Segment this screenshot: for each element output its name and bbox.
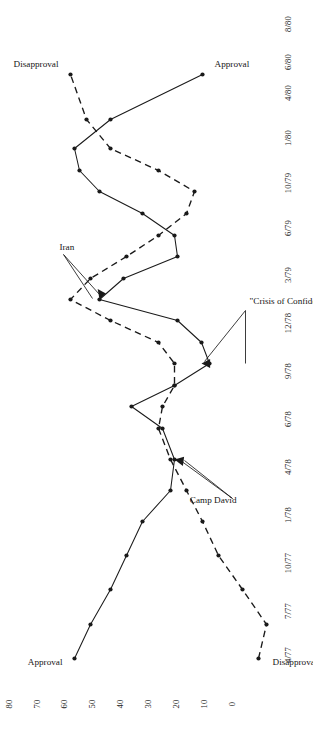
y-tick-30: 30 [143,700,153,709]
approval-line [74,74,209,658]
x-tick-4-80: 4/80 [283,85,293,101]
annotation-crisis-of-confidence: "Crisis of Confidence" [201,295,313,367]
x-tick-8-80: 8/80 [283,16,293,32]
y-tick-40: 40 [115,700,125,709]
camp-david-label: Camp David [189,494,236,504]
y-tick-50: 50 [87,700,97,709]
annotation-camp-david: Camp David [174,456,236,504]
x-tick-9-78: 9/78 [283,363,293,379]
x-tick-4-77: 4/77 [283,647,293,663]
series-approval [72,72,211,660]
rotated-plot-frame: Camp David "Crisis of Confidence" Iran [0,0,313,746]
camp-david-leader [184,460,232,498]
disapproval-series-label-end: Disapproval [13,58,58,68]
y-tick-20: 20 [171,700,181,709]
approval-markers [72,72,211,660]
series-disapproval [68,72,268,660]
y-tick-10: 10 [199,700,209,709]
approval-series-label-start: Approval [27,656,62,666]
y-tick-70: 70 [32,700,42,709]
disapproval-markers [68,72,268,660]
x-tick-1-78: 1/78 [283,507,293,523]
x-tick-10-77: 10/77 [283,553,293,574]
x-tick-6-80: 6/80 [283,54,293,70]
x-tick-6-79: 6/79 [283,220,293,236]
x-tick-6-78: 6/78 [283,411,293,427]
annotation-iran: Iran [59,241,105,299]
iran-label: Iran [59,241,74,251]
x-tick-1-80: 1/80 [283,130,293,146]
x-tick-4-78: 4/78 [283,459,293,475]
chart-figure: Camp David "Crisis of Confidence" Iran [0,0,313,746]
plot-area: Camp David "Crisis of Confidence" Iran [0,0,313,746]
x-tick-10-79: 10/79 [283,173,293,194]
crisis-leader [204,310,245,361]
y-tick-60: 60 [59,700,69,709]
approval-series-label-end: Approval [214,58,249,68]
crisis-of-confidence-label: "Crisis of Confidence" [249,295,313,305]
x-tick-7-77: 7/77 [283,603,293,619]
chart-svg: Camp David "Crisis of Confidence" Iran [0,0,313,746]
y-tick-0: 0 [227,702,237,707]
x-tick-12-78: 12/78 [283,313,293,334]
disapproval-line [70,74,266,658]
y-tick-80: 80 [4,700,14,709]
x-tick-3-79: 3/79 [283,267,293,283]
